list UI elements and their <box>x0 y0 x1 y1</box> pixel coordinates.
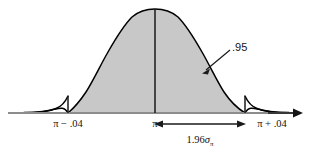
shaded-confidence-area <box>68 9 245 113</box>
se-coefficient: 1.96 <box>186 134 204 145</box>
lower-bound-tick-label: π − .04 <box>53 118 83 129</box>
confidence-area-label: .95 <box>232 41 247 53</box>
distribution-chart-svg: π − .04 π π + .04 .95 1.96σπ <box>0 0 311 153</box>
upper-bound-tick-label: π + .04 <box>257 118 287 129</box>
se-subscript-symbol: π <box>210 140 214 148</box>
left-tail-curve <box>24 96 68 113</box>
normal-distribution-figure: π − .04 π π + .04 .95 1.96σπ <box>0 0 311 153</box>
right-tail-curve <box>245 96 289 113</box>
standard-error-label: 1.96σπ <box>186 134 214 148</box>
se-measure-arrowhead-right <box>237 121 246 128</box>
mean-tick-label: π <box>152 118 158 129</box>
area-annotation-leader-line <box>206 50 230 70</box>
